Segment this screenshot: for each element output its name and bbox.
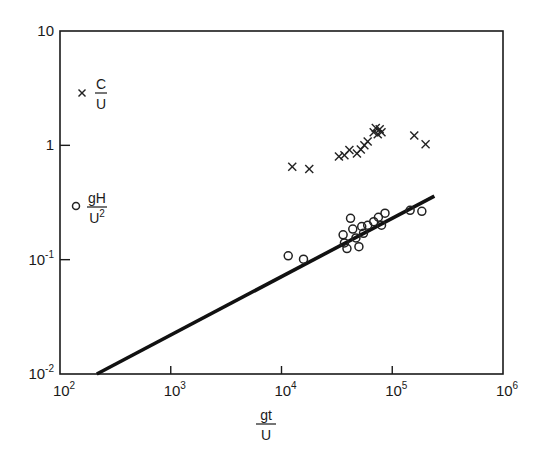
svg-text:U2: U2	[89, 208, 105, 226]
x-tick-label: 106	[496, 380, 519, 399]
svg-text:gt: gt	[260, 407, 272, 423]
y-tick-label: 1	[46, 136, 54, 153]
svg-text:U: U	[261, 427, 271, 443]
plot-frame	[60, 31, 503, 374]
series-gh-over-u2	[284, 206, 426, 263]
x-tick-label: 102	[53, 380, 76, 399]
y-axis-ticks: 10110-110-2	[28, 22, 70, 382]
series-c-over-u	[288, 124, 429, 173]
y-tick-label: 10-2	[28, 363, 54, 382]
svg-text:gH: gH	[88, 190, 106, 206]
x-axis-label-fraction: gtU	[256, 407, 276, 443]
legend-entry-c-over-u: CU	[95, 76, 107, 112]
svg-text:U: U	[96, 96, 106, 112]
y-tick-label: 10	[37, 22, 54, 39]
legend: CUgHU2	[73, 76, 108, 226]
x-axis-ticks: 102103104105106	[53, 366, 519, 399]
x-tick-label: 105	[385, 380, 408, 399]
x-tick-label: 104	[274, 380, 297, 399]
svg-text:C: C	[96, 76, 106, 92]
x-tick-label: 103	[164, 380, 187, 399]
chart: 10110-110-2 102103104105106 CUgHU2 gtU	[0, 0, 544, 468]
legend-entry-gh-over-u2: gHU2	[87, 190, 107, 226]
y-tick-label: 10-1	[28, 249, 54, 268]
x-axis-label: gtU	[256, 407, 276, 443]
